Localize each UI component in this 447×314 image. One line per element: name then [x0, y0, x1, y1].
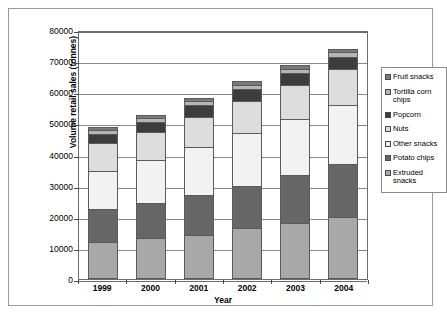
bar-stack[interactable]	[136, 32, 166, 279]
bar-segment[interactable]	[280, 175, 310, 223]
legend-item-label: Fruit snacks	[393, 73, 433, 82]
bar-segment[interactable]	[328, 164, 358, 217]
bar-segment[interactable]	[232, 228, 262, 279]
bar-segment[interactable]	[280, 223, 310, 279]
legend-item-label: Potato chips	[393, 154, 434, 163]
bar-segment[interactable]	[136, 238, 166, 279]
bar-segment[interactable]	[88, 171, 118, 209]
bar-segment[interactable]	[88, 134, 118, 143]
bar-segment[interactable]	[232, 89, 262, 101]
x-axis-tick-label: 2002	[232, 283, 262, 293]
bar-segment[interactable]	[184, 195, 214, 235]
y-axis-tick-label: 50000	[49, 120, 73, 129]
bar-segment[interactable]	[88, 143, 118, 171]
legend-item-label: Nuts	[393, 125, 408, 134]
bar-stack[interactable]	[184, 32, 214, 279]
bar-segment[interactable]	[184, 235, 214, 280]
plot-area	[78, 31, 368, 280]
x-axis-title: Year	[78, 295, 368, 305]
x-axis-tick-label: 2001	[184, 283, 214, 293]
bar-segment[interactable]	[232, 186, 262, 228]
legend-item-label: Other snacks	[393, 140, 437, 149]
bar-segment[interactable]	[136, 160, 166, 203]
legend-item[interactable]: Nuts	[385, 125, 444, 134]
legend: Fruit snacksTortilla corn chipsPopcornNu…	[381, 67, 447, 193]
bar-segment[interactable]	[136, 122, 166, 133]
bar-segment[interactable]	[184, 117, 214, 148]
bar-segment[interactable]	[328, 217, 358, 279]
bar-segment[interactable]	[328, 57, 358, 69]
bar-segment[interactable]	[184, 105, 214, 117]
bar-segment[interactable]	[136, 203, 166, 238]
y-axis-tick-label: 20000	[49, 214, 73, 223]
legend-item[interactable]: Potato chips	[385, 154, 444, 163]
legend-swatch-icon	[385, 170, 391, 176]
bar-segment[interactable]	[88, 209, 118, 242]
y-axis-tick-labels: 0100002000030000400005000060000700008000…	[9, 31, 73, 280]
x-axis-tick-labels: 199920002001200220032004	[78, 283, 368, 293]
legend-item[interactable]: Fruit snacks	[385, 73, 444, 82]
legend-swatch-icon	[385, 155, 391, 161]
x-axis-tick	[368, 280, 369, 284]
bar-segment[interactable]	[328, 69, 358, 105]
y-axis-tick-label: 0	[68, 276, 73, 285]
y-axis-tick-label: 70000	[49, 58, 73, 67]
bar-stack[interactable]	[232, 32, 262, 279]
bar-segment[interactable]	[232, 101, 262, 133]
bar-stack[interactable]	[280, 32, 310, 279]
legend-item[interactable]: Other snacks	[385, 140, 444, 149]
legend-item-label: Popcorn	[393, 111, 421, 120]
legend-swatch-icon	[385, 74, 391, 80]
legend-item-label: Tortilla corn chips	[393, 88, 444, 105]
bar-stack[interactable]	[328, 32, 358, 279]
bar-segment[interactable]	[280, 119, 310, 175]
bar-segment[interactable]	[136, 132, 166, 160]
legend-swatch-icon	[385, 112, 391, 118]
legend-item[interactable]: Popcorn	[385, 111, 444, 120]
bar-group	[79, 32, 367, 279]
x-axis-tick-label: 1999	[87, 283, 117, 293]
legend-item[interactable]: Tortilla corn chips	[385, 88, 444, 105]
bar-segment[interactable]	[184, 147, 214, 194]
bar-segment[interactable]	[328, 105, 358, 164]
y-axis-tick-label: 10000	[49, 245, 73, 254]
legend-swatch-icon	[385, 141, 391, 147]
legend-swatch-icon	[385, 126, 391, 132]
bar-segment[interactable]	[280, 73, 310, 85]
bar-segment[interactable]	[88, 242, 118, 279]
figure-frame: Volume retail sales (tonnes) 01000020000…	[8, 8, 433, 306]
legend-item-label: Extruded snacks	[393, 169, 444, 186]
bar-segment[interactable]	[280, 85, 310, 119]
y-axis-tick-label: 80000	[49, 27, 73, 36]
legend-item[interactable]: Extruded snacks	[385, 169, 444, 186]
legend-swatch-icon	[385, 89, 391, 95]
y-axis-tick-label: 60000	[49, 89, 73, 98]
x-axis-tick-label: 2000	[135, 283, 165, 293]
x-axis-tick-label: 2004	[329, 283, 359, 293]
bar-segment[interactable]	[232, 133, 262, 187]
y-axis-tick-label: 30000	[49, 183, 73, 192]
y-axis-tick-label: 40000	[49, 152, 73, 161]
bar-stack[interactable]	[88, 32, 118, 279]
x-axis-tick-label: 2003	[280, 283, 310, 293]
